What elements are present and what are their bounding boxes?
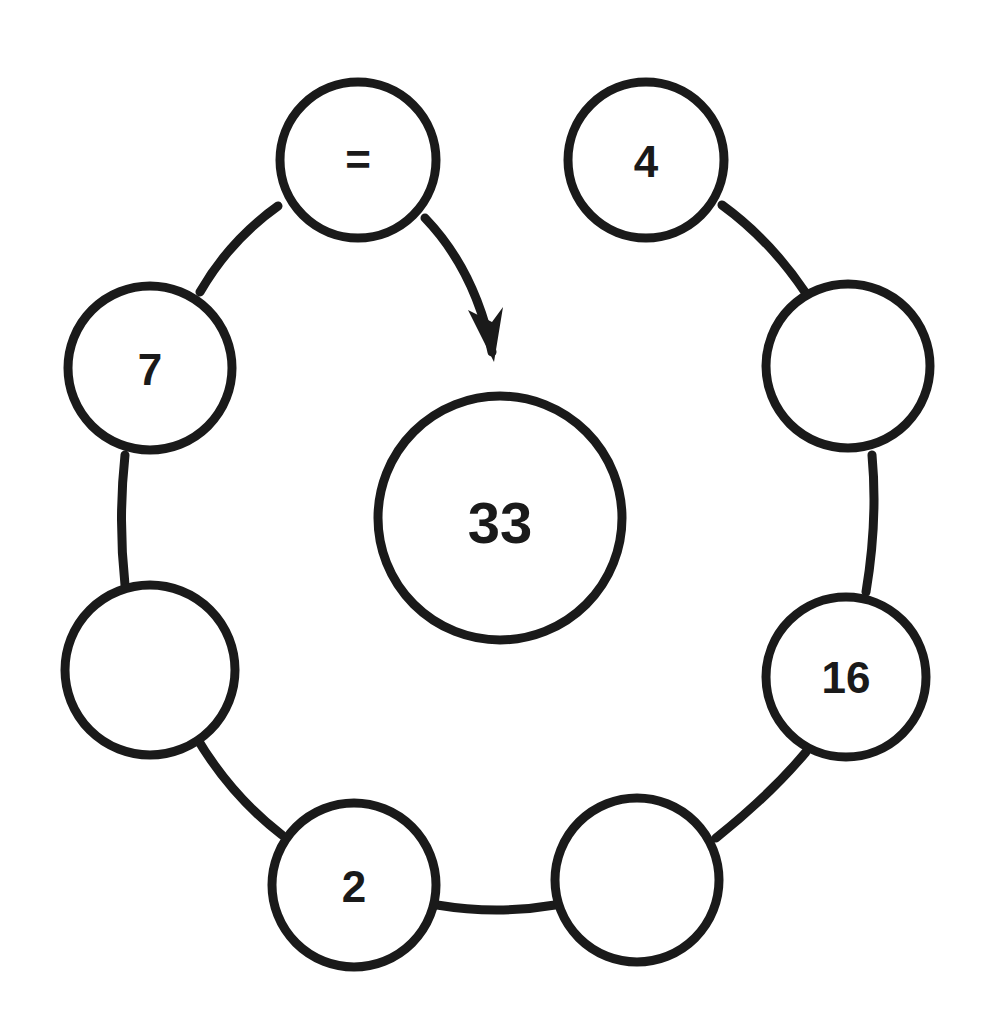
center-value: 33 <box>468 489 533 556</box>
node-label-7: 7 <box>138 345 162 395</box>
connector-empty-4 <box>722 205 805 292</box>
connector-empty-16 <box>716 752 806 838</box>
connector-equals-7 <box>200 206 278 292</box>
node-label-equals: = <box>345 135 371 185</box>
node-bottom-right <box>555 798 719 962</box>
node-left-lower <box>65 585 235 755</box>
node-label-16: 16 <box>822 653 871 703</box>
node-label-4: 4 <box>634 137 658 187</box>
connector-2-empty <box>437 905 555 910</box>
connector-7-empty <box>122 455 126 585</box>
connector-empty-2 <box>195 735 282 835</box>
node-label-2: 2 <box>342 862 366 912</box>
connector-16-empty <box>866 455 874 592</box>
node-right-upper <box>766 284 930 448</box>
